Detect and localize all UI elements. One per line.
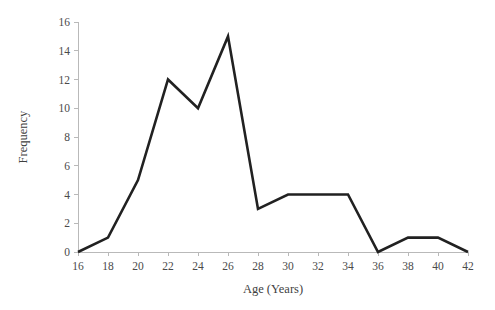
- x-tick-label: 34: [342, 260, 354, 272]
- y-tick-label: 6: [64, 160, 70, 172]
- x-tick-label: 36: [372, 260, 384, 272]
- y-axis-title: Frequency: [16, 110, 30, 164]
- y-tick-label: 0: [64, 246, 70, 258]
- x-tick-label: 40: [432, 260, 444, 272]
- y-tick-label: 10: [59, 102, 71, 114]
- x-tick-label: 26: [222, 260, 234, 272]
- frequency-series-line: [78, 36, 468, 252]
- x-tick-label: 32: [312, 260, 324, 272]
- x-tick-label: 38: [402, 260, 414, 272]
- x-tick-label: 18: [102, 260, 114, 272]
- y-tick-label: 12: [59, 74, 71, 86]
- y-axis-tick-marks: [74, 22, 78, 252]
- x-axis-title: Age (Years): [243, 282, 303, 296]
- x-axis-tick-labels: 1618202224262830323436384042: [72, 260, 474, 272]
- y-tick-label: 8: [64, 131, 70, 143]
- x-tick-label: 28: [252, 260, 264, 272]
- x-tick-label: 42: [462, 260, 474, 272]
- y-tick-label: 16: [59, 16, 71, 28]
- x-axis-tick-marks: [78, 252, 468, 256]
- chart-plot-svg: 0246810121416 16182022242628303234363840…: [0, 0, 495, 310]
- y-axis-tick-labels: 0246810121416: [59, 16, 71, 258]
- chart-axes: [78, 22, 468, 252]
- x-tick-label: 30: [282, 260, 294, 272]
- x-tick-label: 16: [72, 260, 84, 272]
- x-tick-label: 20: [132, 260, 144, 272]
- x-tick-label: 22: [162, 260, 174, 272]
- frequency-polygon-chart: 0246810121416 16182022242628303234363840…: [0, 0, 495, 310]
- y-tick-label: 14: [59, 45, 71, 57]
- y-tick-label: 4: [64, 189, 70, 201]
- y-tick-label: 2: [64, 217, 70, 229]
- x-tick-label: 24: [192, 260, 204, 272]
